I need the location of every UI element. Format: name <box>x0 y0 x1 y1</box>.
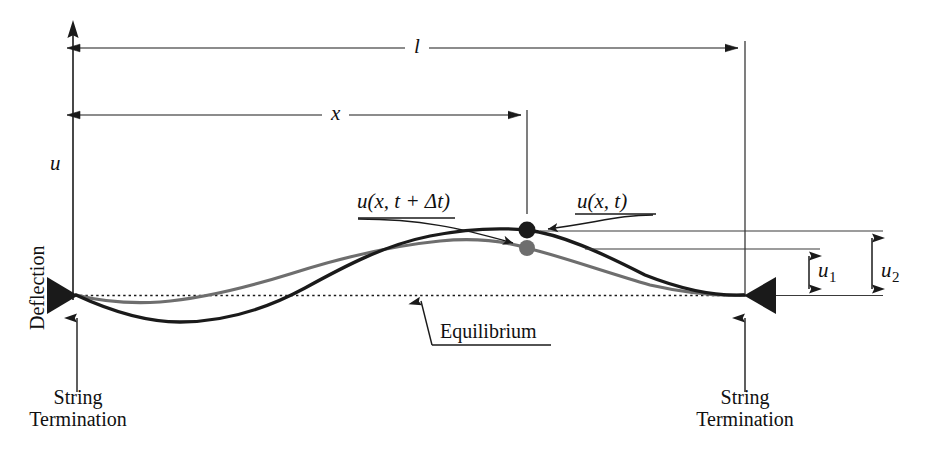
deflection-label-u2: u2 <box>881 259 900 286</box>
deflection-axis-label: Deflection <box>26 246 48 330</box>
curve-label-u-x-t-delta-t-text: u(x, t + Δt) <box>357 189 450 213</box>
left-termination-label-line2: Termination <box>9 408 147 430</box>
u-axis-label: u <box>50 152 61 176</box>
deflection-label-u1: u1 <box>818 259 837 286</box>
point-u-x-t <box>519 222 536 239</box>
point-u-x-t-dt <box>519 240 535 256</box>
string-curve-current <box>76 229 744 322</box>
string-deflection-figure: l x u Deflection u(x, t + Δt) u(x, t) Eq… <box>0 0 927 460</box>
length-dimension-l <box>80 41 745 297</box>
deflection-label-u1-subscript: 1 <box>829 269 837 285</box>
right-termination-label-line1: String <box>676 386 814 408</box>
position-label-x: x <box>322 102 349 126</box>
position-dimension-x <box>80 110 527 214</box>
curve-label-u-x-t-text: u(x, t) <box>577 189 627 213</box>
curve-label-u-x-t-delta-t: u(x, t + Δt) <box>357 190 450 214</box>
deflection-label-u1-base: u <box>818 258 829 282</box>
right-termination-marker <box>744 277 776 314</box>
right-termination-label-line2: Termination <box>676 408 814 430</box>
left-termination-label-line1: String <box>9 386 147 408</box>
equilibrium-label: Equilibrium <box>440 320 537 342</box>
deflection-label-u2-subscript: 2 <box>892 269 900 285</box>
right-termination-label: String Termination <box>676 386 814 431</box>
deflection-label-u2-base: u <box>881 258 892 282</box>
u-x-t-leader <box>548 214 656 229</box>
left-termination-label: String Termination <box>9 386 147 431</box>
length-label-l: l <box>405 35 429 59</box>
u-axis <box>67 20 78 300</box>
curve-label-u-x-t: u(x, t) <box>577 190 627 214</box>
